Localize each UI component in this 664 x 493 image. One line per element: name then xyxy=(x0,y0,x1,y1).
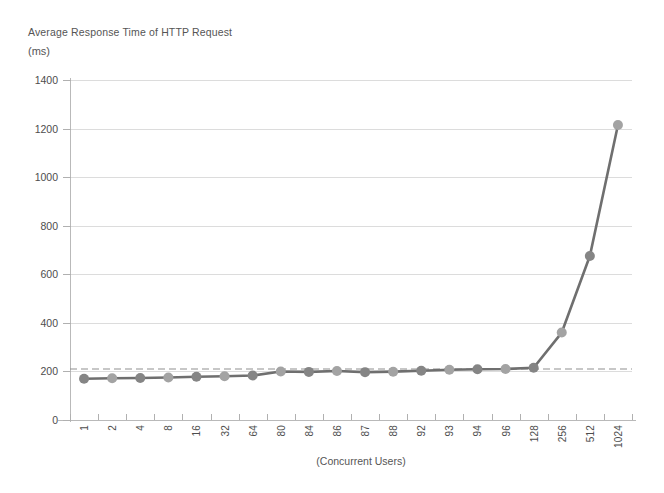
chart-container: Average Response Time of HTTP Request (m… xyxy=(0,0,664,493)
data-point-marker xyxy=(163,373,173,383)
data-point-marker xyxy=(557,328,567,338)
series-markers xyxy=(79,120,623,384)
data-point-marker xyxy=(79,374,89,384)
data-point-marker xyxy=(107,373,117,383)
data-point-marker xyxy=(135,373,145,383)
data-point-marker xyxy=(220,371,230,381)
data-point-marker xyxy=(276,366,286,376)
data-point-marker xyxy=(191,372,201,382)
series-line-average-response-time xyxy=(84,125,618,379)
data-point-marker xyxy=(416,366,426,376)
data-point-marker xyxy=(472,364,482,374)
data-point-marker xyxy=(613,120,623,130)
series-layer xyxy=(0,0,664,493)
data-point-marker xyxy=(501,364,511,374)
data-point-marker xyxy=(444,365,454,375)
data-point-marker xyxy=(304,367,314,377)
data-point-marker xyxy=(248,371,258,381)
data-point-marker xyxy=(360,367,370,377)
data-point-marker xyxy=(332,366,342,376)
data-point-marker xyxy=(388,367,398,377)
data-point-marker xyxy=(529,363,539,373)
data-point-marker xyxy=(585,251,595,261)
